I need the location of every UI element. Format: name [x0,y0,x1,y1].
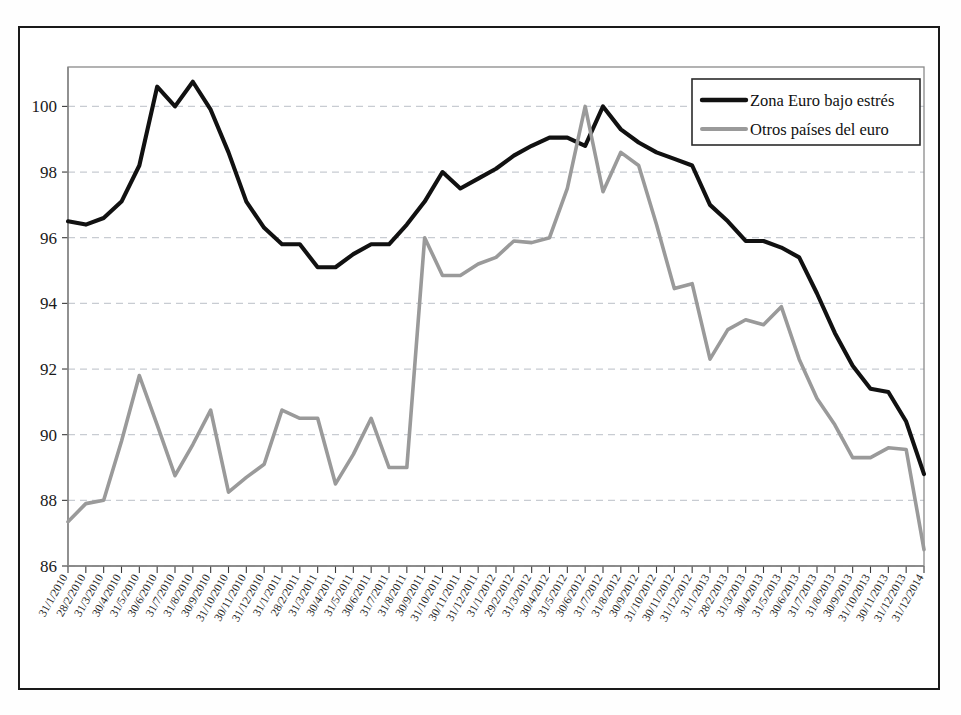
data-series [68,82,924,550]
x-axis-ticks [68,566,924,573]
chart-page: 86889092949698100 31/1/201028/2/201031/3… [0,0,961,715]
y-tick-label: 98 [40,163,57,182]
legend-label-2: Otros países del euro [750,120,889,139]
chart-legend: Zona Euro bajo estrésOtros países del eu… [692,79,920,145]
y-tick-label: 92 [40,360,57,379]
y-tick-label: 86 [40,557,57,576]
y-tick-label: 88 [40,491,57,510]
y-tick-label: 96 [40,229,57,248]
y-axis-labels: 86889092949698100 [32,97,58,576]
gridlines [68,106,924,566]
x-axis-labels: 31/1/201028/2/201031/3/201030/4/201031/5… [36,572,926,624]
y-tick-label: 100 [32,97,58,116]
y-tick-label: 90 [40,426,57,445]
line-chart: 86889092949698100 31/1/201028/2/201031/3… [0,0,961,715]
series-line-2 [68,106,924,549]
legend-label-1: Zona Euro bajo estrés [750,91,894,110]
chart-canvas: 86889092949698100 31/1/201028/2/201031/3… [0,0,961,715]
y-tick-label: 94 [40,294,58,313]
